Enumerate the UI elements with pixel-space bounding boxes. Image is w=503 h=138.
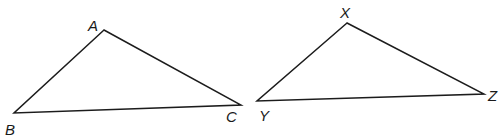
triangle-xyz-outline <box>257 23 484 101</box>
vertex-label-x: X <box>339 4 351 21</box>
vertex-label-c: C <box>226 108 237 125</box>
vertex-label-a: A <box>87 17 98 34</box>
triangle-abc-outline <box>14 30 241 113</box>
vertex-label-z: Z <box>487 87 498 104</box>
vertex-label-y: Y <box>259 107 270 124</box>
geometry-figure: A B C X Y Z <box>0 0 503 138</box>
vertex-label-b: B <box>5 121 15 138</box>
triangle-abc: A B C <box>5 17 241 138</box>
triangle-xyz: X Y Z <box>257 4 498 124</box>
